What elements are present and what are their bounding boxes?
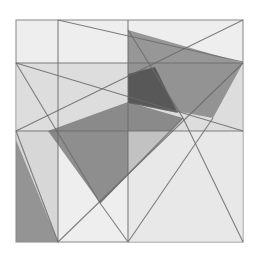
geometric-composition <box>0 0 255 257</box>
lower-right-light-shape <box>128 131 243 242</box>
artwork-canvas <box>0 0 255 257</box>
